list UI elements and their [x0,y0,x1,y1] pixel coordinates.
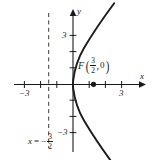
focus-label: F ( 3 2 , 0 ) [78,57,110,74]
focus-label-comma: , [97,61,100,71]
x-axis-arrowhead [139,81,146,88]
x-axis-name-label: x [140,72,144,81]
y-tick-label-3: 3 [62,31,67,40]
focus-label-open-paren: ( [85,60,89,72]
y-axis-name-label: y [77,7,81,16]
directrix-label: x = − 3 2 [28,133,54,150]
focus-label-close-paren: ) [105,60,109,72]
focus-x-denominator: 2 [90,67,96,75]
focus-y-value: 0 [100,61,105,70]
y-axis-arrowhead [70,9,77,16]
directrix-fraction: 3 2 [47,133,53,150]
directrix-minus-sign: − [41,137,46,146]
directrix-numerator: 3 [47,133,53,141]
y-tick-label--3: −3 [57,128,68,137]
focus-point-dot [91,82,96,87]
figure-canvas [0,0,152,160]
parabola-figure: −3 3 3 −3 x y F ( 3 2 , 0 ) x = − 3 2 [0,0,152,160]
x-tick-label-3: 3 [119,89,124,98]
focus-x-fraction: 3 2 [90,57,96,74]
directrix-denominator: 2 [47,143,53,151]
focus-x-numerator: 3 [90,57,96,65]
parabola-curve [73,3,114,160]
focus-label-name: F [78,61,84,71]
x-axis [14,81,146,88]
directrix-variable: x [28,137,32,146]
x-tick-label--3: −3 [19,89,30,98]
directrix-equals: = [34,137,39,146]
